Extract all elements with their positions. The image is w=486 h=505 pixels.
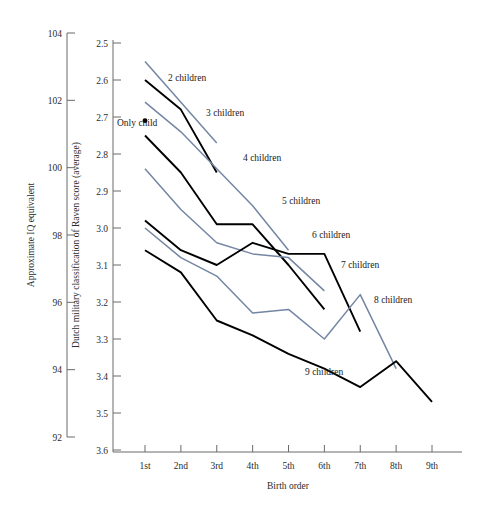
raven-tick-label: 2.8	[96, 150, 108, 160]
series-annotation: Only child	[117, 118, 158, 128]
x-axis-ticks: 1st2nd3rd4th5th6th7th8th9th	[139, 445, 438, 471]
raven-tick-label: 3.2	[96, 298, 108, 308]
x-tick-label: 6th	[318, 461, 330, 471]
left-tick-label: 98	[53, 231, 63, 241]
raven-tick-label: 3.6	[96, 446, 108, 456]
left-tick-label: 96	[53, 298, 63, 308]
series-annotation: 8 children	[374, 295, 413, 305]
series-annotation: 7 children	[341, 260, 380, 270]
series-layer	[143, 62, 432, 402]
raven-tick-label: 2.7	[96, 113, 108, 123]
left-axis-title: Approximate IQ equivalent	[26, 182, 36, 287]
raven-tick-label: 2.5	[96, 39, 108, 49]
x-tick-label: 4th	[247, 461, 259, 471]
x-tick-label: 3rd	[210, 461, 223, 471]
raven-tick-label: 3.4	[96, 372, 108, 382]
birth-order-iq-line-chart: 10410210098969492 Approximate IQ equival…	[0, 0, 486, 505]
series-annotation: 4 children	[243, 153, 282, 163]
x-tick-label: 5th	[282, 461, 294, 471]
series-annotation: 6 children	[312, 230, 351, 240]
series-line-9-children	[145, 250, 432, 402]
raven-tick-label: 3.3	[96, 335, 108, 345]
series-annotation: 9 children	[305, 367, 344, 377]
left-tick-label: 102	[48, 96, 63, 106]
x-tick-label: 8th	[390, 461, 402, 471]
x-tick-label: 7th	[354, 461, 366, 471]
x-tick-label: 9th	[426, 461, 438, 471]
chart-figure: 10410210098969492 Approximate IQ equival…	[0, 0, 486, 505]
annotation-layer: 2 children3 childrenOnly child4 children…	[117, 73, 413, 377]
raven-tick-label: 3.1	[96, 261, 108, 271]
left-iq-axis: 10410210098969492 Approximate IQ equival…	[26, 29, 75, 443]
series-annotation: 5 children	[282, 196, 321, 206]
raven-axis: 2.52.62.72.82.93.03.13.23.33.43.53.6 Dut…	[71, 39, 121, 456]
raven-axis-title: Dutch military classification of Raven s…	[71, 142, 82, 348]
x-axis-title: Birth order	[267, 481, 310, 491]
left-tick-label: 104	[48, 29, 63, 39]
raven-tick-label: 2.9	[96, 187, 108, 197]
x-axis: 1st2nd3rd4th5th6th7th8th9th Birth order	[113, 445, 462, 491]
x-tick-label: 1st	[139, 461, 150, 471]
raven-tick-label: 2.6	[96, 76, 108, 86]
series-annotation: 2 children	[168, 73, 207, 83]
raven-axis-ticks: 2.52.62.72.82.93.03.13.23.33.43.53.6	[96, 39, 121, 456]
series-line-4-children	[145, 102, 289, 250]
left-tick-label: 92	[53, 433, 63, 443]
raven-tick-label: 3.0	[96, 224, 108, 234]
series-annotation: 3 children	[206, 108, 245, 118]
x-tick-label: 2nd	[174, 461, 189, 471]
raven-tick-label: 3.5	[96, 409, 108, 419]
left-tick-label: 94	[53, 365, 63, 375]
series-line-5-children	[145, 136, 324, 310]
left-tick-label: 100	[48, 163, 63, 173]
